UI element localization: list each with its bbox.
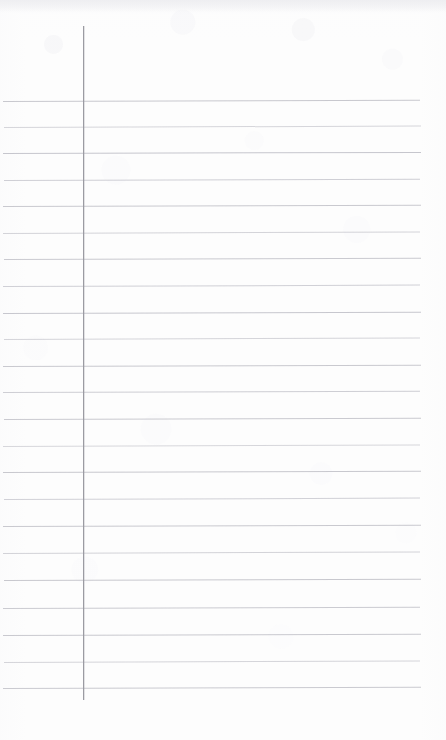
ruled-line xyxy=(3,444,420,447)
ruled-line xyxy=(4,337,420,340)
vertical-margin-rule xyxy=(83,26,84,700)
ruled-lines-layer xyxy=(0,0,446,740)
ruled-line xyxy=(4,258,421,260)
ruled-line xyxy=(4,498,420,500)
ruled-line xyxy=(3,100,420,102)
ruled-line xyxy=(3,634,421,636)
ruled-line xyxy=(4,418,421,420)
ruled-line xyxy=(3,285,420,287)
ruled-line xyxy=(3,525,421,527)
ruled-line xyxy=(3,687,421,689)
ruled-line xyxy=(4,579,421,581)
scanned-page xyxy=(0,0,446,740)
ruled-line xyxy=(3,312,421,314)
ruled-line xyxy=(3,391,420,393)
ruled-line xyxy=(3,232,420,234)
ruled-line xyxy=(4,660,420,663)
ruled-line xyxy=(4,126,421,128)
ruled-line xyxy=(4,179,420,181)
ruled-line xyxy=(3,607,420,609)
ruled-line xyxy=(3,552,420,554)
ruled-line xyxy=(3,205,421,207)
ruled-line xyxy=(3,365,421,367)
ruled-line xyxy=(3,152,421,154)
ruled-line xyxy=(3,471,421,473)
